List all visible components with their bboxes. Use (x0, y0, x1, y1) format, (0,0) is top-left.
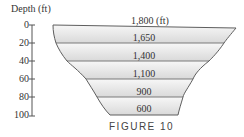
figure-caption: FIGURE 10 (109, 121, 174, 132)
layer-label-80: 900 (104, 87, 184, 97)
layer-label-60: 1,100 (104, 69, 184, 79)
layer-label-0: 1,800 (ft) (110, 16, 190, 26)
layer-label-20: 1,650 (104, 33, 184, 43)
depth-axis (29, 25, 35, 116)
layer-label-40: 1,400 (104, 51, 184, 61)
layer-label-100: 600 (104, 104, 184, 114)
